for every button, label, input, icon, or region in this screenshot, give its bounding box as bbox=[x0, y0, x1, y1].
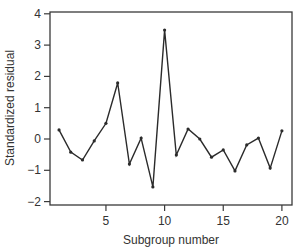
residual-line-chart: −2−101234 5101520 Standardized residual … bbox=[0, 0, 301, 252]
data-point bbox=[57, 128, 60, 131]
x-tick-label: 10 bbox=[158, 214, 172, 228]
y-tick-label: −1 bbox=[27, 163, 41, 177]
y-tick-label: 3 bbox=[34, 38, 41, 52]
x-tick-label: 5 bbox=[103, 214, 110, 228]
data-point bbox=[69, 151, 72, 154]
plot-frame bbox=[50, 12, 292, 205]
y-tick-label: 0 bbox=[34, 132, 41, 146]
data-point bbox=[140, 136, 143, 139]
residual-series-line bbox=[59, 30, 282, 187]
data-point bbox=[93, 139, 96, 142]
y-axis-title: Standardized residual bbox=[3, 50, 17, 166]
data-point bbox=[222, 148, 225, 151]
data-point bbox=[245, 143, 248, 146]
y-tick-label: 2 bbox=[34, 69, 41, 83]
data-point bbox=[175, 153, 178, 156]
y-tick-label: −2 bbox=[27, 195, 41, 209]
y-axis-ticks: −2−101234 bbox=[27, 7, 50, 209]
data-point bbox=[163, 28, 166, 31]
data-point bbox=[280, 129, 283, 132]
x-tick-label: 20 bbox=[275, 214, 289, 228]
data-point-markers bbox=[57, 28, 283, 188]
data-point bbox=[128, 162, 131, 165]
x-tick-label: 15 bbox=[217, 214, 231, 228]
data-point bbox=[116, 81, 119, 84]
x-axis-ticks: 5101520 bbox=[103, 205, 289, 228]
data-point bbox=[257, 136, 260, 139]
data-point bbox=[151, 185, 154, 188]
data-point bbox=[210, 156, 213, 159]
data-point bbox=[233, 169, 236, 172]
data-point bbox=[269, 167, 272, 170]
x-axis-title: Subgroup number bbox=[123, 233, 219, 247]
data-point bbox=[104, 122, 107, 125]
data-point bbox=[198, 137, 201, 140]
data-point bbox=[186, 127, 189, 130]
data-point bbox=[81, 158, 84, 161]
y-tick-label: 1 bbox=[34, 101, 41, 115]
y-tick-label: 4 bbox=[34, 7, 41, 21]
